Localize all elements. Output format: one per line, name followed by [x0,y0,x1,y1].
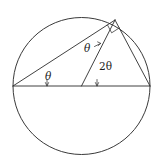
chord-left-to-apex [13,20,115,86]
angle-label-two-theta-center: 2θ [99,60,112,72]
geometry-figure-container: θ θ 2θ [0,0,163,167]
angle-label-theta-apex: θ [84,42,91,54]
angle-label-theta-left: θ [45,70,52,82]
chord-apex-to-right [115,20,150,86]
geometry-figure-svg: θ θ 2θ [0,0,163,167]
